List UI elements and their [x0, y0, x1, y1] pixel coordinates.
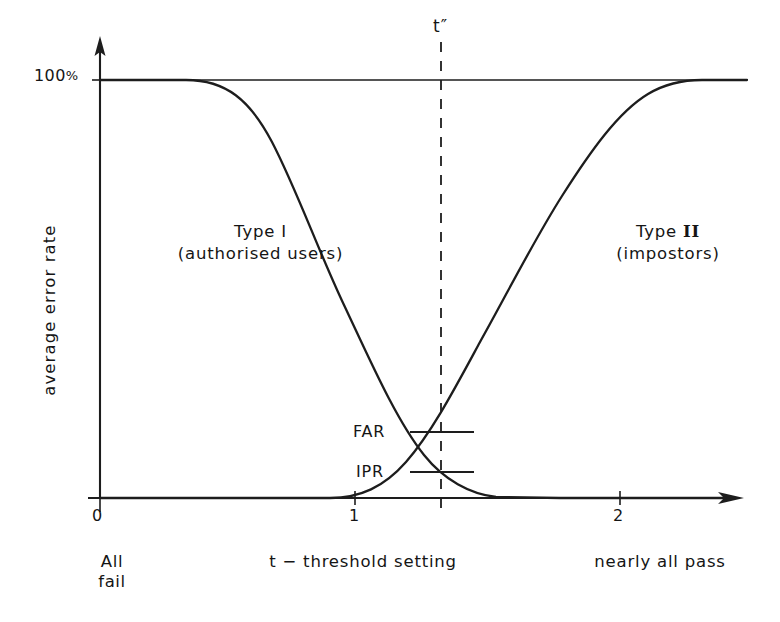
x-tick-label-1: 1 [349, 506, 360, 526]
annotation-type-1: Type I (authorised users) [168, 222, 353, 264]
x-axis-caption-left: All fail [72, 552, 152, 592]
annotation-type-2: Type II (impostors) [588, 222, 748, 264]
x-tick-label-0: 0 [92, 506, 103, 526]
ipr-label: IPR [356, 462, 384, 482]
y-axis-top-suffix: % [66, 68, 79, 83]
curve-type-2 [100, 80, 747, 498]
figure-roc-threshold-chart: 100% average error rate t″ Type I (autho… [0, 0, 780, 622]
annotation-type-2-title: Type [636, 222, 683, 241]
x-axis-caption-left-line2: fail [72, 572, 152, 592]
y-axis-top-value: 100 [34, 66, 66, 85]
threshold-marker-label: t″ [433, 16, 448, 37]
x-tick-label-2: 2 [613, 506, 624, 526]
y-axis-top-tick-label: 100% [34, 66, 79, 86]
annotation-type-2-subtitle: (impostors) [588, 244, 748, 264]
curve-type-1 [100, 80, 726, 498]
x-axis-title: t − threshold setting [248, 552, 478, 572]
x-axis-caption-left-line1: All [101, 552, 123, 571]
annotation-type-1-title: Type I [234, 222, 287, 241]
y-axis-title: average error rate [40, 200, 60, 420]
far-label: FAR [353, 422, 385, 442]
annotation-type-1-subtitle: (authorised users) [168, 244, 353, 264]
x-axis-caption-right: nearly all pass [560, 552, 760, 572]
annotation-type-2-numeral: II [683, 222, 700, 241]
chart-canvas [0, 0, 780, 622]
